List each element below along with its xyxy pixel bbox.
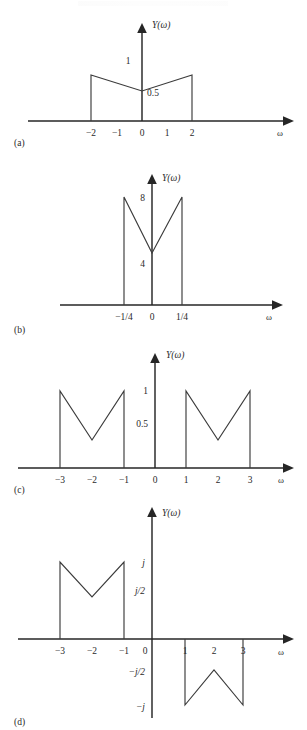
panel-b: Y(ω) ω 8 4 −1/4 0 1/4 (b) <box>0 155 307 330</box>
y-tick-1: 1 <box>126 56 131 66</box>
x-tick-neg3: −3 <box>55 646 65 656</box>
x-tick-1: 1 <box>165 128 170 138</box>
x-tick-neg1: −1 <box>119 475 129 485</box>
x-tick-2: 2 <box>212 646 217 656</box>
y-tick-0p5: 0.5 <box>136 419 148 429</box>
x-tick-1: 1 <box>183 646 188 656</box>
x-tick-neg2: −2 <box>87 646 97 656</box>
y-tick-neg-j: −j <box>136 702 145 712</box>
x-tick-neg1: −1 <box>112 128 122 138</box>
x-tick-0: 0 <box>143 646 148 656</box>
panel-tag-c: (c) <box>14 485 25 495</box>
panel-tag-a: (a) <box>14 138 25 148</box>
y-tick-neg-j-half: −j/2 <box>129 667 146 677</box>
y-axis-arrowhead <box>150 353 160 363</box>
x-tick-3: 3 <box>248 475 253 485</box>
x-tick-3: 3 <box>241 646 246 656</box>
y-tick-1: 1 <box>143 386 148 396</box>
x-tick-0: 0 <box>140 128 145 138</box>
x-tick-2: 2 <box>190 128 195 138</box>
y-axis-label: Y(ω) <box>162 173 180 184</box>
panel-tag-d: (d) <box>14 717 25 727</box>
y-axis-label: Y(ω) <box>162 508 180 519</box>
x-axis-arrowhead <box>283 634 294 644</box>
x-tick-1: 1 <box>184 475 189 485</box>
panel-d-plot: Y(ω) ω j j/2 −j/2 −j −3 −2 −1 0 1 2 3 <box>0 495 307 730</box>
x-tick-pos-quarter: 1/4 <box>176 312 188 322</box>
y-axis-arrowhead <box>147 507 157 517</box>
y-tick-0p5: 0.5 <box>147 88 159 98</box>
x-tick-0: 0 <box>153 475 158 485</box>
x-axis-arrowhead <box>272 300 283 310</box>
y-axis-label: Y(ω) <box>152 20 170 31</box>
y-axis-label: Y(ω) <box>166 350 184 361</box>
x-tick-neg2: −2 <box>87 475 97 485</box>
y-tick-8: 8 <box>140 193 145 203</box>
y-axis-arrowhead <box>147 174 157 184</box>
x-axis-label: ω <box>266 312 272 322</box>
x-axis-arrowhead <box>283 463 294 473</box>
spectrum-curve-positive-band <box>186 391 250 468</box>
x-axis-label: ω <box>278 475 284 485</box>
x-tick-neg2: −2 <box>86 128 96 138</box>
x-axis-label: ω <box>277 128 283 138</box>
panel-d: Y(ω) ω j j/2 −j/2 −j −3 −2 −1 0 1 2 3 (d… <box>0 495 307 730</box>
y-tick-j: j <box>140 558 145 568</box>
spectrum-curve-negative-band <box>60 391 124 468</box>
x-axis-label: ω <box>278 647 284 657</box>
panel-a-plot: Y(ω) ω 1 0.5 −2 −1 0 1 2 <box>0 0 307 155</box>
x-tick-neg1: −1 <box>119 646 129 656</box>
x-tick-neg-quarter: −1/4 <box>115 312 133 322</box>
panel-a: Y(ω) ω 1 0.5 −2 −1 0 1 2 (a) <box>0 0 307 155</box>
panel-c: Y(ω) ω 1 0.5 −3 −2 −1 0 1 2 3 (c) <box>0 330 307 495</box>
figure-sheet: Y(ω) ω 1 0.5 −2 −1 0 1 2 (a) Y(ω) ω 8 4 <box>0 0 307 730</box>
panel-b-plot: Y(ω) ω 8 4 −1/4 0 1/4 <box>0 155 307 330</box>
spectrum-curve <box>124 197 182 305</box>
x-tick-neg3: −3 <box>55 475 65 485</box>
spectrum-curve-negative-band <box>60 562 124 639</box>
panel-c-plot: Y(ω) ω 1 0.5 −3 −2 −1 0 1 2 3 <box>0 330 307 495</box>
y-tick-j-half: j/2 <box>133 586 145 596</box>
y-axis-arrowhead <box>137 23 147 33</box>
x-tick-0: 0 <box>150 312 155 322</box>
x-axis-arrowhead <box>283 116 294 126</box>
x-tick-2: 2 <box>216 475 221 485</box>
y-tick-4: 4 <box>140 259 145 269</box>
